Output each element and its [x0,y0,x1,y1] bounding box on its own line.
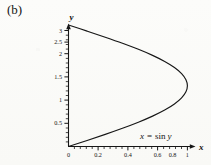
x-tick-label-3: 0.6 [154,151,162,158]
x-axis-label: x [198,142,204,152]
equation-func: sin [155,131,166,141]
x-tick-label-2: 0.4 [124,151,132,158]
plot-area: 0.5 1 1.5 2 2.5 3 [0,0,211,165]
x-axis [69,144,196,149]
y-axis-label: y [69,12,75,22]
equation-rhs-var: y [167,131,172,141]
x-axis-major-ticks [98,147,187,151]
y-tick-label-5: 3 [59,27,62,34]
figure-panel: (b) [0,0,211,165]
y-tick-label-3: 2 [59,50,62,57]
y-axis-arrowhead [66,24,71,30]
y-tick-label-0: 0.5 [54,119,62,126]
x-axis-arrowhead [190,144,196,149]
equation-equals: = [147,131,152,141]
x-tick-label-4: 0.8 [169,151,177,158]
curve-x-equals-sin-y [69,25,188,146]
y-tick-label-2: 1.5 [54,73,62,80]
equation-lhs: x [139,131,144,141]
y-tick-label-1: 1 [59,96,62,103]
x-tick-label-5: 1 [186,151,189,158]
x-tick-label-1: 0.2 [94,151,102,158]
y-tick-label-4: 2.5 [54,38,62,45]
x-tick-label-0: 0 [67,151,70,158]
curve-equation-annotation: x=siny [139,131,172,141]
